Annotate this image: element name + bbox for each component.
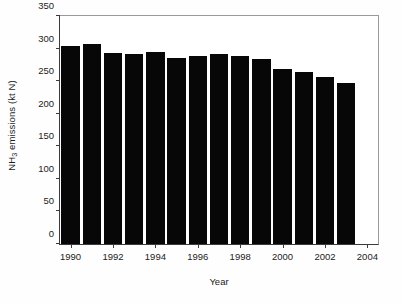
x-axis-tick [155, 244, 156, 248]
y-axis-tick-label: 250 [38, 65, 54, 76]
plot-area: 0501001502002503003501990199219941996199… [59, 15, 379, 245]
bar [337, 83, 355, 244]
x-axis-tick-label: 1994 [145, 251, 166, 262]
y-axis-tick [56, 145, 60, 146]
bar [83, 44, 101, 244]
y-axis-tick-label: 300 [38, 32, 54, 43]
bar [295, 72, 313, 244]
bar [189, 56, 207, 244]
y-axis-title-container: NH3 emissions (kt N) [0, 0, 22, 250]
y-axis-tick-label: 350 [38, 0, 54, 11]
bar [167, 58, 185, 244]
y-axis-tick [56, 80, 60, 81]
y-axis-title-prefix: NH [6, 156, 17, 170]
x-axis-tick-label: 1998 [230, 251, 251, 262]
bar [252, 59, 270, 244]
x-axis-tick [367, 244, 368, 248]
bar [231, 56, 249, 244]
x-axis-tick-label: 2004 [357, 251, 378, 262]
bar [125, 54, 143, 244]
x-axis-tick [325, 244, 326, 248]
x-axis-tick-label: 2000 [272, 251, 293, 262]
y-axis-tick [56, 178, 60, 179]
y-axis-title-subscript: 3 [10, 152, 19, 156]
y-axis-tick [56, 113, 60, 114]
y-axis-tick-label: 50 [43, 195, 54, 206]
y-axis-tick-label: 200 [38, 97, 54, 108]
bar-series [60, 16, 378, 244]
y-axis-tick-label: 100 [38, 162, 54, 173]
x-axis-tick [71, 244, 72, 248]
x-axis-tick-label: 2002 [314, 251, 335, 262]
y-axis-tick [56, 243, 60, 244]
y-axis-title-suffix: emissions (kt N) [6, 80, 17, 152]
bar [146, 52, 164, 244]
y-axis-tick-label: 150 [38, 130, 54, 141]
bar [273, 69, 291, 244]
bar [316, 77, 334, 244]
y-axis-tick [56, 15, 60, 16]
x-axis-title: Year [59, 276, 379, 287]
y-axis-tick-label: 0 [49, 228, 54, 239]
x-axis-tick [198, 244, 199, 248]
x-axis-tick-label: 1992 [102, 251, 123, 262]
y-axis-tick [56, 210, 60, 211]
bar [210, 54, 228, 244]
chart-figure: NH3 emissions (kt N) 0501001502002503003… [0, 0, 402, 303]
bar [61, 46, 79, 244]
x-axis-tick-label: 1990 [60, 251, 81, 262]
x-axis-tick [113, 244, 114, 248]
x-axis-tick [283, 244, 284, 248]
bar [104, 53, 122, 244]
y-axis-tick [56, 48, 60, 49]
x-axis-tick [240, 244, 241, 248]
x-axis-tick-label: 1996 [187, 251, 208, 262]
y-axis-title: NH3 emissions (kt N) [6, 80, 17, 171]
